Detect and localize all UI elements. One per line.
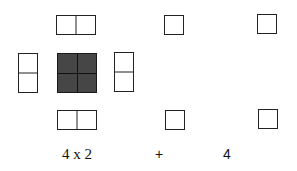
unit-square-bottom-right — [258, 109, 278, 129]
label-plus: + — [155, 147, 163, 161]
domino-left — [18, 53, 38, 93]
grid-line-horizontal — [58, 73, 96, 74]
domino-top — [56, 15, 96, 35]
label-squares-count: 4 — [223, 147, 231, 161]
domino-bottom — [57, 110, 97, 130]
unit-square-bottom-middle — [165, 110, 185, 130]
unit-square-top-right — [257, 14, 277, 34]
unit-square-top-middle — [164, 15, 184, 35]
label-dominoes-count: 4 x 2 — [62, 147, 92, 162]
domino-right — [114, 52, 134, 92]
center-square — [57, 53, 97, 93]
